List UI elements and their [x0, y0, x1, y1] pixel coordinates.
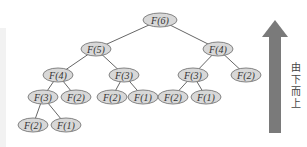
tree-node: F(1) — [191, 90, 221, 104]
recursion-tree-diagram: F(6)F(5)F(4)F(4)F(3)F(3)F(2)F(3)F(2)F(2)… — [0, 0, 307, 147]
node-label: F(1) — [196, 92, 215, 104]
direction-char-3: 而 — [289, 86, 303, 98]
up-arrow-icon — [262, 20, 288, 133]
node-label: F(2) — [23, 120, 42, 132]
tree-node: F(3) — [109, 68, 139, 82]
node-label: F(4) — [48, 70, 67, 82]
node-label: F(4) — [208, 44, 227, 56]
node-label: F(2) — [66, 92, 85, 104]
node-label: F(6) — [150, 15, 169, 27]
tree-node: F(1) — [128, 90, 158, 104]
direction-char-4: 上 — [289, 98, 303, 110]
direction-label-bottom-up: 由 下 而 上 — [289, 62, 303, 110]
tree-node: F(4) — [43, 68, 73, 82]
node-label: F(3) — [33, 92, 52, 104]
node-label: F(1) — [56, 120, 75, 132]
direction-char-1: 由 — [289, 62, 303, 74]
tree-node: F(3) — [28, 90, 58, 104]
tree-node: F(2) — [97, 90, 127, 104]
tree-node: F(2) — [158, 90, 188, 104]
node-label: F(3) — [183, 70, 202, 82]
node-label: F(2) — [102, 92, 121, 104]
tree-node: F(2) — [61, 90, 91, 104]
tree-node: F(3) — [178, 68, 208, 82]
node-label: F(1) — [133, 92, 152, 104]
node-label: F(2) — [236, 70, 255, 82]
node-label: F(5) — [86, 44, 105, 56]
tree-node: F(6) — [143, 13, 177, 27]
tree-node: F(4) — [203, 42, 233, 56]
tree-node: F(2) — [18, 118, 48, 132]
node-label: F(3) — [114, 70, 133, 82]
tree-node: F(5) — [81, 42, 111, 56]
tree-node: F(2) — [231, 68, 261, 82]
tree-node: F(1) — [51, 118, 81, 132]
direction-char-2: 下 — [289, 74, 303, 86]
tree-nodes: F(6)F(5)F(4)F(4)F(3)F(3)F(2)F(3)F(2)F(2)… — [18, 13, 261, 132]
node-label: F(2) — [163, 92, 182, 104]
